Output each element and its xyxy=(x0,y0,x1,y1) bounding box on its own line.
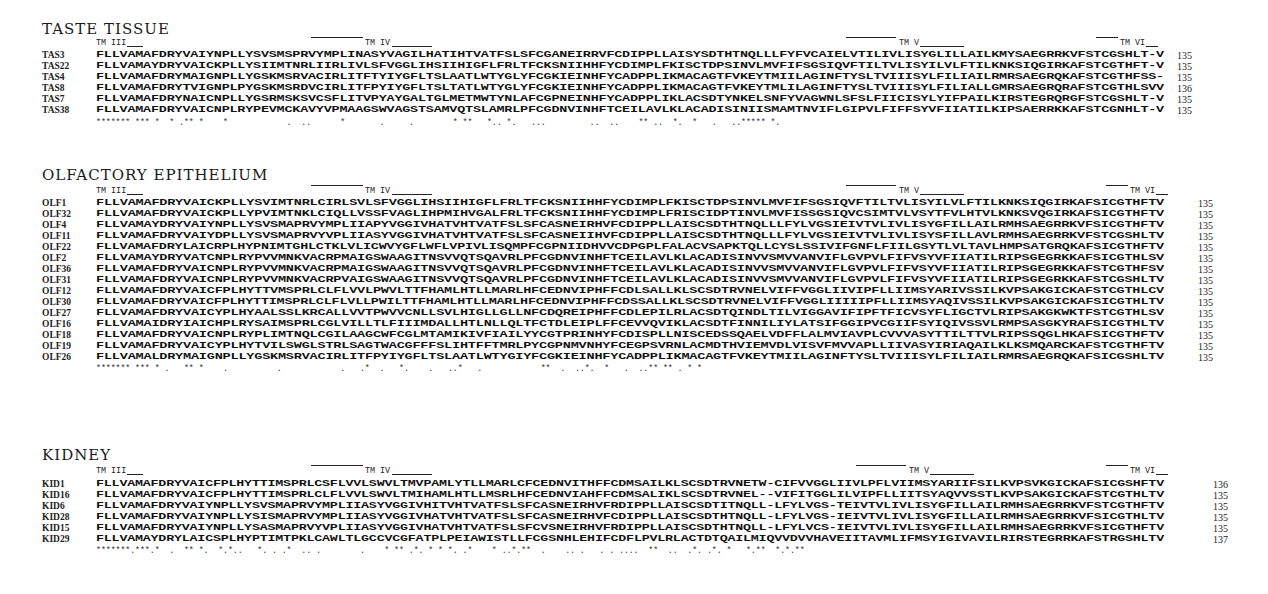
sequence-length: 135 xyxy=(1177,72,1192,83)
sequence-length: 135 xyxy=(1213,490,1228,501)
sequence-residues: FLLVAMAFDRYVAICYPLHYTVILSWGLSTRLSAGTWACG… xyxy=(96,341,1164,351)
sequence-row: TAS8 FLLVAMAFDRYTVIGNPLPYGSKMSRDVCIRLITF… xyxy=(0,83,1268,94)
sequence-row: OLF1FLLVAMAFDRYVAICKPLLYSVIMTNRLCIRLSVLS… xyxy=(0,198,1268,209)
sequence-alignment-figure: TASTE TISSUE TM III TM IV TM V TM VI TAS… xyxy=(0,0,1268,594)
tm-segment-line xyxy=(392,194,432,195)
sequence-length: 135 xyxy=(1198,308,1213,319)
sequence-row: OLF22FLLVAMAFDRYLAICRPLHYPNIMTGHLCTKLVLI… xyxy=(0,242,1268,253)
tm-segment-line xyxy=(930,474,974,475)
sequence-name: OLF36 xyxy=(42,264,71,274)
sequence-name: OLF19 xyxy=(42,341,71,351)
sequence-name: OLF32 xyxy=(42,209,71,219)
tm-label: TM V xyxy=(899,186,919,196)
tm-annotation-row: TM III TM IV TM V TM VI xyxy=(96,186,1256,198)
sequence-length: 135 xyxy=(1198,286,1213,297)
tm-label: TM VI xyxy=(1130,466,1155,476)
tm-annotation-row: TM III TM IV TM V TM VI xyxy=(96,38,1216,50)
section-title: OLFACTORY EPITHELIUM xyxy=(42,166,268,184)
sequence-row: TAS4 FLLVAMAFDRYMAIGNPLLYGSKMSRVACIRLITF… xyxy=(0,72,1268,83)
sequence-row: OLF19FLLVAMAFDRYVAICYPLHYTVILSWGLSTRLSAG… xyxy=(0,341,1268,352)
sequence-residues: FLLVAMAFDRYVAICNPLRYPVVMNKVACRPVAIGSWAAG… xyxy=(96,275,1164,285)
sequence-residues: FLLVAMAFDRYVAICNPLRYPVVMNKVACRPMAIGSWAAG… xyxy=(96,264,1164,274)
tm-label: TM V xyxy=(899,38,919,48)
sequence-name: OLF2 xyxy=(42,253,66,263)
sequence-name: OLF4 xyxy=(42,220,66,230)
tm-segment-line xyxy=(1156,474,1168,475)
sequence-row: TAS22 FLLVAMAYDRYVAICKPLLYSIIMTNRLIIRLIV… xyxy=(0,61,1268,72)
tm-segment-line xyxy=(392,46,432,47)
tm-segment-line xyxy=(856,465,906,466)
sequence-row: KID28FLLVAMAFDRYVAIYNPLLYSISMAPRVYMPLIIA… xyxy=(0,512,1268,523)
sequence-length: 135 xyxy=(1213,523,1228,534)
sequence-name: KID16 xyxy=(42,490,69,500)
sequence-name: OLF22 xyxy=(42,242,71,252)
sequence-name: KID1 xyxy=(42,479,65,489)
sequence-residues: FLLVAMAFDRYVAIYNPLLYSASMAPRVYVPLIIASYVGG… xyxy=(96,523,1164,533)
sequence-row: TAS7 FLLVAMAFDRYNAICNPLLYGSRMSKSVCSFLITV… xyxy=(0,94,1268,105)
tm-label: TM IV xyxy=(365,38,390,48)
sequence-name: TAS22 xyxy=(42,61,69,71)
sequence-row: OLF4FLLVAMAYDRYVAIYNPLLYSVSMAPRVYMPLIIAP… xyxy=(0,220,1268,231)
section-title: KIDNEY xyxy=(42,446,111,464)
sequence-name: TAS3 xyxy=(42,50,65,60)
tm-label: TM IV xyxy=(365,186,390,196)
sequence-name: TAS38 xyxy=(42,105,69,115)
sequence-residues: FLLVAMAFDRYMAIGNPLLYGSKMSRVACIRLITFTYIYG… xyxy=(96,72,1164,82)
conservation-line: *******.***.* . ** *. *.*.. *. . .* .. .… xyxy=(96,546,805,556)
sequence-row: OLF16FLLVAMAIDRYIAICHPLRYSAIMSPRLCGLVILL… xyxy=(0,319,1268,330)
sequence-row: KID29FLLVAMAYDRYLAICSPLHYPTIMTPKLCAWLTLG… xyxy=(0,534,1268,545)
tm-segment-line xyxy=(920,194,964,195)
sequence-length: 137 xyxy=(1213,534,1228,545)
sequence-name: KID28 xyxy=(42,512,69,522)
sequence-residues: FLLVAMAFDRYVAICFPLHYTTIMSPRLCLFLVLLPWILT… xyxy=(96,297,1164,307)
sequence-residues: FLLVAMAFDRYVAICNPLRYPEVMCKAVYVPMAAGSWVAG… xyxy=(96,105,1164,115)
sequence-residues: FLLVAMAFDRYNAICNPLLYGSRMSKSVCSFLITVPYAYG… xyxy=(96,94,1164,104)
tm-label: TM III xyxy=(96,38,126,48)
sequence-name: OLF27 xyxy=(42,308,71,318)
sequence-row: OLF11FLLVAMAFDRYVAIYDPLLYSVSMAPRVYVPLIIA… xyxy=(0,231,1268,242)
sequence-residues: FLLVAMAFDRYVAIYNPLLYSISMAPRVYMPLIIASYVGG… xyxy=(96,512,1164,522)
sequence-length: 135 xyxy=(1177,50,1192,61)
sequence-residues: FLLVAMAFDRYVAICYPLHYAALSSLKRCALLVVTPWVVC… xyxy=(96,308,1164,318)
sequence-length: 135 xyxy=(1177,61,1192,72)
sequence-length: 135 xyxy=(1198,231,1213,242)
sequence-residues: FLLVAMAFDRYVAICNPLRYPLIMTNQLCGILAAGCWFCG… xyxy=(96,330,1164,340)
sequence-length: 135 xyxy=(1198,242,1213,253)
sequence-residues: FLLVAMAFDRYVAICFPLHYTTIMSPRLCLFLVVLSWVLT… xyxy=(96,490,1164,500)
sequence-name: OLF30 xyxy=(42,297,71,307)
sequence-residues: FLLVAMAIDRYIAICHPLRYSAIMSPRLCGLVILLTLFII… xyxy=(96,319,1164,329)
conservation-line: ******* *** * . ** * . . . .* . *. . ..*… xyxy=(96,364,702,374)
sequence-name: TAS7 xyxy=(42,94,65,104)
sequence-residues: FLLVAMAFDRYVAICFPLHYTTVMSPRLCLFLVVLPWVLT… xyxy=(96,286,1164,296)
tm-segment-line xyxy=(920,46,964,47)
sequence-length: 135 xyxy=(1177,105,1192,116)
sequence-length: 135 xyxy=(1198,352,1213,363)
sequence-name: OLF26 xyxy=(42,352,71,362)
tm-segment-line xyxy=(127,46,143,47)
tm-segment-line xyxy=(1156,194,1168,195)
tm-segment-line xyxy=(1096,37,1118,38)
tm-segment-line xyxy=(1146,46,1158,47)
sequence-residues: FLLVAMAFDRYVAICFPLHYTTIMSPRLCSFLVVLSWVLT… xyxy=(96,479,1164,489)
sequence-length: 135 xyxy=(1198,319,1213,330)
sequence-residues: FLLVAMAYDRYLAICSPLHYPTIMTPKLCAWLTLGCCVCG… xyxy=(96,534,1164,544)
sequence-name: TAS8 xyxy=(42,83,65,93)
sequence-length: 135 xyxy=(1213,501,1228,512)
sequence-name: KID6 xyxy=(42,501,65,511)
sequence-length: 135 xyxy=(1198,275,1213,286)
sequence-row: OLF27FLLVAMAFDRYVAICYPLHYAALSSLKRCALLVVT… xyxy=(0,308,1268,319)
sequence-length: 136 xyxy=(1177,83,1192,94)
sequence-row: TAS3 FLLVAMAFDRYVAIYNPLLYSVSMSPRVYMPLINA… xyxy=(0,50,1268,61)
sequence-row: KID15FLLVAMAFDRYVAIYNPLLYSASMAPRVYVPLIIA… xyxy=(0,523,1268,534)
sequence-row: KID6FLLVAMAFDRYVAIYNPLLYSVSMAPRVYMPLIIAS… xyxy=(0,501,1268,512)
sequence-name: OLF18 xyxy=(42,330,71,340)
sequence-row: OLF18FLLVAMAFDRYVAICNPLRYPLIMTNQLCGILAAG… xyxy=(0,330,1268,341)
sequence-name: TAS4 xyxy=(42,72,65,82)
sequence-residues: FLLVAMAYDRYVATCNPLRYPVVMNKVACRPMAIGSWAAG… xyxy=(96,253,1164,263)
tm-annotation-row: TM III TM IV TM V TM VI xyxy=(96,466,1256,478)
sequence-residues: FLLVAMAFDRYVAIYDPLLYSVSMAPRVYVPLIIASYVGG… xyxy=(96,231,1164,241)
sequence-residues: FLLVAMAFDRYVAIYNPLLYSVSMAPRVYMPLIIASYVGG… xyxy=(96,501,1164,511)
sequence-name: OLF31 xyxy=(42,275,71,285)
sequence-name: OLF16 xyxy=(42,319,71,329)
sequence-row: OLF32FLLVAMAFDRYVAICKPLLYPVIMTNKLCIQLLVS… xyxy=(0,209,1268,220)
